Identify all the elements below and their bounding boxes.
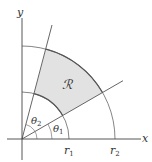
x-axis-label: x [142,132,149,145]
angle-arc-theta2 [26,125,37,140]
r1-label: r1 [64,144,74,158]
y-axis-label: y [16,6,24,19]
r2-label: r2 [110,144,120,158]
theta2-label: θ2 [31,115,42,128]
polar-region-diagram: x y ℛ r1 r2 θ1 θ2 [0,0,152,162]
angle-arc-theta1 [48,124,52,139]
theta1-label: θ1 [53,123,64,136]
